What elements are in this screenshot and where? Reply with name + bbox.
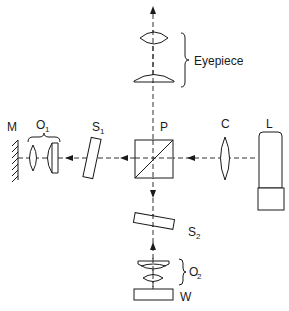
arrow-left-icon [65,155,73,161]
slide-s2: S 2 [133,213,201,241]
objective2-subscript: 2 [197,272,202,281]
prism-label: P [160,120,168,134]
slide2-plate [133,213,174,230]
objective1-lens-doublet [48,143,59,173]
top-arrow-icon [150,6,156,14]
objective1-lens-biconvex [30,145,37,171]
eyepiece-lens-biconvex [140,32,168,44]
eyepiece: Eyepiece [134,30,244,87]
lamp-base [258,188,284,210]
slide-s1: S 1 [83,120,105,179]
eyepiece-label: Eyepiece [194,54,244,68]
lamp: L [258,117,284,210]
objective2-brace [179,259,186,285]
slide2-label: S [188,225,196,239]
objective1-brace [28,133,60,142]
arrow-up-icon [150,242,156,250]
condenser: C [221,117,231,180]
condenser-lens [221,137,230,180]
lamp-bulb [259,132,282,188]
mirror: M [7,120,18,182]
slide1-subscript: 1 [100,127,105,136]
arrow-down-icon [150,190,156,198]
mirror-label: M [7,120,17,134]
arrow-left-icon [187,155,195,161]
eyepiece-lens-planoconvex [134,75,174,83]
eyepiece-brace [181,33,189,87]
objective1-label: O [36,118,45,132]
mirror-hatching [12,140,18,182]
objective-o1: O 1 [28,118,60,173]
slide2-subscript: 2 [196,232,201,241]
arrow-left-icon [120,155,128,161]
condenser-label: C [221,117,230,131]
slide1-label: S [92,120,100,134]
objective-o2: O 2 [138,258,202,289]
workpiece-label: W [180,290,192,304]
objective1-subscript: 1 [45,125,50,134]
lamp-label: L [266,117,273,131]
prism: P [135,120,173,178]
optical-diagram: Eyepiece M O 1 S 1 P [0,0,289,311]
workpiece: W [134,289,192,304]
workpiece-block [134,289,173,300]
